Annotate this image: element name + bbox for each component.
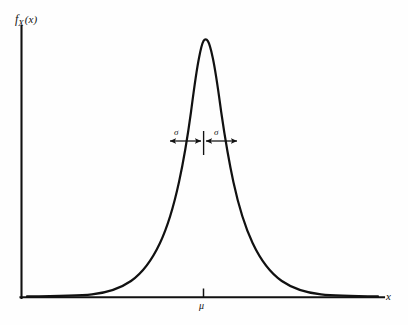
x-axis-label: x [386, 291, 391, 302]
y-axis-label: fX(x) [15, 13, 37, 28]
plot-canvas [0, 0, 408, 325]
sigma-left-label: σ [174, 128, 178, 137]
y-axis-label-subscript: X [18, 18, 24, 28]
gaussian-curve [27, 39, 378, 296]
mean-label: μ [199, 301, 204, 311]
y-axis-label-argument: (x) [25, 13, 37, 25]
sigma-right-label: σ [214, 128, 218, 137]
normal-distribution-figure: fX(x) x μ σ σ [0, 0, 408, 325]
